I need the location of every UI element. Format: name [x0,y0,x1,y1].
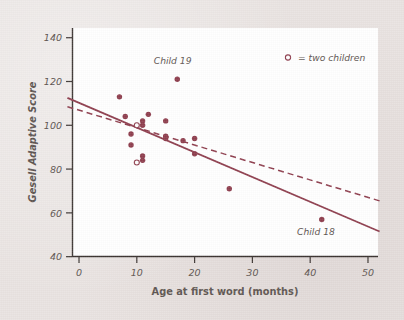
y-tick-label-120: 120 [44,76,62,87]
y-axis-title: Gesell Adaptive Score [27,81,38,202]
x-tick-label-20: 20 [189,267,201,278]
data-point [128,142,133,147]
annotation-child-18: Child 18 [297,226,335,237]
x-tick-label-50: 50 [362,267,374,278]
data-point [140,158,145,163]
x-axis-title: Age at first word (months) [152,286,299,297]
x-tick-label-10: 10 [131,267,143,278]
y-axis-tick-labels: 140 120 100 80 60 40 [44,32,62,262]
data-point [146,112,151,117]
x-tick-label-0: 0 [76,267,82,278]
y-tick-label-60: 60 [50,208,62,219]
data-point [163,118,168,123]
x-tick-label-30: 30 [246,267,258,278]
data-point [192,136,197,141]
x-tick-label-40: 40 [304,267,316,278]
annotation-child-19: Child 19 [154,55,192,66]
data-point [227,186,232,191]
data-point [163,136,168,141]
figure-canvas: 140 120 100 80 60 40 0 10 20 30 40 50 Ag… [0,0,404,320]
x-axis-tick-labels: 0 10 20 30 40 50 [76,267,374,278]
data-point [140,123,145,128]
data-point [192,151,197,156]
legend: = two children [285,52,365,63]
gesell-scatter-plot: 140 120 100 80 60 40 0 10 20 30 40 50 Ag… [0,0,404,320]
data-point-open-two-children [134,160,139,165]
y-tick-label-80: 80 [50,164,62,175]
y-tick-label-140: 140 [44,32,62,43]
data-point [128,131,133,136]
y-tick-label-40: 40 [50,251,62,262]
data-point [175,77,180,82]
x-axis-ticks [79,257,368,263]
data-point [319,217,324,222]
data-point [123,114,128,119]
data-point [117,94,122,99]
data-point [180,138,185,143]
y-tick-label-100: 100 [44,120,62,131]
legend-open-circle-icon [285,55,290,60]
legend-label-two-children: = two children [298,52,366,63]
y-axis-ticks [66,38,72,257]
data-point-open-two-children [134,123,139,128]
